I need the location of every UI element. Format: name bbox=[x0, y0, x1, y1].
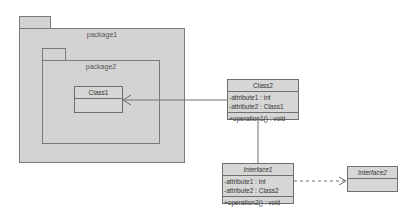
association-class2-class1[interactable] bbox=[123, 95, 227, 105]
relationship-lines bbox=[0, 0, 413, 213]
dependency-interface1-interface2[interactable] bbox=[294, 177, 346, 185]
